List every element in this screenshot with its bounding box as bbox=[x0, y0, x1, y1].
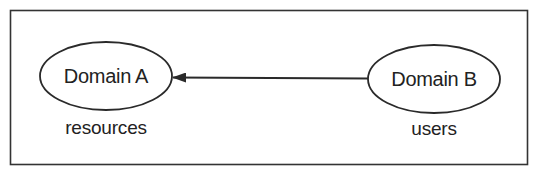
domain-b-label: Domain B bbox=[391, 68, 476, 90]
node-domain-a: Domain A resources bbox=[40, 42, 172, 138]
node-domain-b: Domain B users bbox=[368, 45, 500, 139]
domain-a-label: Domain A bbox=[64, 65, 149, 87]
domain-a-caption: resources bbox=[65, 117, 147, 138]
arrow-b-to-a bbox=[173, 78, 368, 79]
trust-diagram: Domain A resources Domain B users bbox=[0, 0, 535, 177]
domain-b-caption: users bbox=[411, 118, 456, 139]
